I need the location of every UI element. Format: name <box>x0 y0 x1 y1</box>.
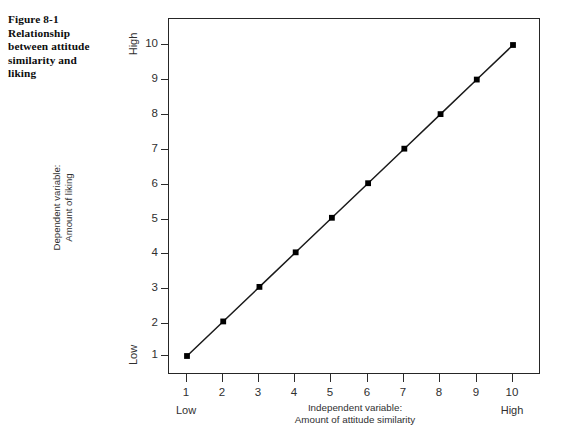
x-tick-label: 9 <box>463 386 489 399</box>
y-tick-label: 7 <box>134 143 158 155</box>
y-tick-label: 3 <box>134 282 158 294</box>
y-axis-title-line: Dependent variable: <box>51 138 63 278</box>
x-tick-label: 10 <box>499 386 525 399</box>
x-axis-title: Independent variable: Amount of attitude… <box>190 402 520 427</box>
x-tick-label-text: 4 <box>281 386 307 399</box>
y-tick-label-text: 4 <box>134 247 158 259</box>
x-tick-mark <box>403 374 404 382</box>
x-tick-label: 7 <box>390 386 416 399</box>
data-point <box>329 215 335 221</box>
y-tick-label-text: 5 <box>134 213 158 225</box>
x-tick-label-text: 10 <box>499 386 525 399</box>
x-tick-label-text: 1 <box>173 386 199 399</box>
x-tick-label: 1 <box>173 386 199 399</box>
x-tick-label-text: 5 <box>317 386 343 399</box>
x-tick-label: 8 <box>426 386 452 399</box>
x-tick-mark <box>294 374 295 382</box>
y-tick-label: 6 <box>134 178 158 190</box>
y-tick-label: 2 <box>134 317 158 329</box>
data-point <box>257 284 263 290</box>
x-tick-label-text: 8 <box>426 386 452 399</box>
x-tick-mark <box>367 374 368 382</box>
y-tick-label-text: 10 <box>134 38 158 50</box>
data-point <box>510 42 516 48</box>
data-point <box>438 111 444 117</box>
x-tick-mark <box>439 374 440 382</box>
x-tick-mark <box>512 374 513 382</box>
y-tick-label: 4 <box>134 247 158 259</box>
figure-caption-line: liking <box>8 67 108 81</box>
x-tick-label: 5 <box>317 386 343 399</box>
y-tick-label: 9 <box>134 73 158 85</box>
x-tick-label-text: 3 <box>245 386 271 399</box>
x-tick-label-text: 2 <box>209 386 235 399</box>
y-tick-label: 1 <box>134 349 158 361</box>
x-tick-label: 2 <box>209 386 235 399</box>
y-tick-label-text: 7 <box>134 143 158 155</box>
data-point <box>220 319 226 325</box>
y-tick-label-text: 6 <box>134 178 158 190</box>
x-tick-label: 3 <box>245 386 271 399</box>
figure-caption-line: Figure 8-1 <box>8 13 108 27</box>
line-series <box>169 19 541 375</box>
y-tick-label-text: 1 <box>134 349 158 361</box>
x-tick-label: 4 <box>281 386 307 399</box>
data-point <box>365 180 371 186</box>
data-point <box>474 77 480 83</box>
x-tick-mark <box>330 374 331 382</box>
x-axis-title-line: Amount of attitude similarity <box>190 414 520 426</box>
series-line <box>187 45 513 356</box>
y-tick-label: 8 <box>134 108 158 120</box>
figure-caption: Figure 8-1 Relationship between attitude… <box>8 13 108 81</box>
figure-caption-line: between attitude <box>8 40 108 54</box>
figure-caption-line: Relationship <box>8 27 108 41</box>
x-axis-title-line: Independent variable: <box>190 402 520 414</box>
y-axis-title: Dependent variable: Amount of liking <box>51 138 74 278</box>
data-point <box>184 353 190 359</box>
x-tick-mark <box>476 374 477 382</box>
x-tick-label-text: 9 <box>463 386 489 399</box>
x-tick-label: 6 <box>354 386 380 399</box>
x-tick-mark <box>186 374 187 382</box>
plot-area <box>168 18 540 374</box>
data-point <box>293 249 299 255</box>
x-tick-mark <box>258 374 259 382</box>
x-tick-mark <box>222 374 223 382</box>
y-tick-label: 5 <box>134 213 158 225</box>
y-axis-title-line: Amount of liking <box>62 138 74 278</box>
y-tick-label-text: 3 <box>134 282 158 294</box>
y-tick-label-text: 9 <box>134 73 158 85</box>
y-tick-label-text: 2 <box>134 317 158 329</box>
y-tick-label: 10 <box>134 38 158 50</box>
y-tick-label-text: 8 <box>134 108 158 120</box>
data-point <box>401 146 407 152</box>
figure-caption-line: similarity and <box>8 54 108 68</box>
x-tick-label-text: 6 <box>354 386 380 399</box>
x-tick-label-text: 7 <box>390 386 416 399</box>
